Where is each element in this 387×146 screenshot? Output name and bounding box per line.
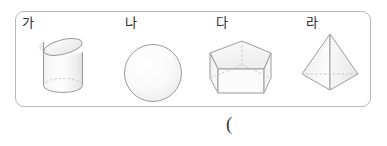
solid-item-pyramid: 라 — [290, 12, 370, 108]
pentagonal-prism-drawing — [196, 12, 290, 108]
cylinder-drawing — [18, 12, 110, 108]
solid-item-sphere: 나 — [110, 12, 196, 108]
answer-blank-row: ( — [0, 112, 387, 142]
pyramid-right-face — [330, 34, 358, 90]
solid-item-cylinder: 가 — [18, 12, 110, 108]
solids-container-box: 가 — [15, 11, 371, 107]
prism-front-center-face — [218, 69, 264, 93]
answer-open-paren: ( — [226, 112, 232, 136]
sphere-drawing — [110, 12, 196, 108]
geometry-figure: 가 — [0, 0, 387, 146]
solid-item-pentagonal-prism: 다 — [196, 12, 290, 108]
prism-top-face — [210, 41, 271, 69]
sphere-outline — [125, 45, 182, 102]
pyramid-drawing — [290, 12, 370, 108]
pyramid-left-face — [302, 34, 330, 90]
